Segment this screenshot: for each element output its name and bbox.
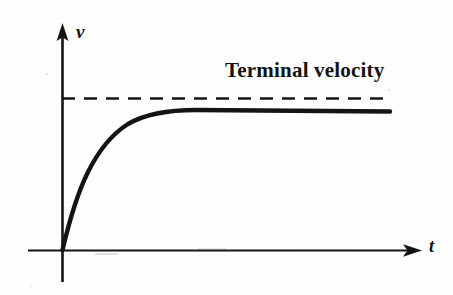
x-axis-label: t — [429, 237, 434, 255]
terminal-velocity-annotation: Terminal velocity — [225, 59, 385, 81]
x-axis — [28, 244, 422, 257]
terminal-velocity-figure: v t Terminal velocity — [0, 0, 453, 295]
graph-canvas — [0, 0, 453, 295]
y-axis-label: v — [76, 22, 84, 41]
velocity-curve — [63, 110, 391, 250]
